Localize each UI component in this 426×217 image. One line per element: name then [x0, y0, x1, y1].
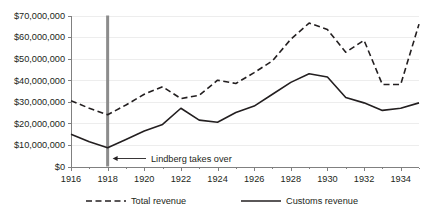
y-axis-tick-label: $30,000,000 — [14, 97, 65, 107]
x-axis-tick-label: 1932 — [354, 174, 374, 184]
x-axis-tick-label: 1928 — [281, 174, 301, 184]
chart-container: $0$10,000,000$20,000,000$30,000,000$40,0… — [0, 0, 426, 217]
annotation-label: Lindberg takes over — [151, 154, 232, 164]
y-axis-tick-label: $60,000,000 — [14, 32, 65, 42]
y-axis-tick-label: $0 — [55, 162, 65, 172]
x-axis-tick-label: 1926 — [244, 174, 264, 184]
legend-label-total-revenue: Total revenue — [131, 196, 186, 206]
y-axis-tick-label: $70,000,000 — [14, 11, 65, 21]
legend-label-customs-revenue: Customs revenue — [286, 196, 358, 206]
x-axis-tick-label: 1918 — [97, 174, 117, 184]
x-axis-tick-label: 1934 — [390, 174, 410, 184]
revenue-line-chart: $0$10,000,000$20,000,000$30,000,000$40,0… — [0, 0, 426, 217]
x-axis-tick-label: 1922 — [171, 174, 191, 184]
y-axis-tick-label: $10,000,000 — [14, 140, 65, 150]
y-axis-tick-label: $40,000,000 — [14, 76, 65, 86]
x-axis-tick-label: 1916 — [61, 174, 81, 184]
y-axis-tick-label: $50,000,000 — [14, 54, 65, 64]
x-axis-tick-label: 1924 — [207, 174, 227, 184]
x-axis-tick-label: 1930 — [317, 174, 337, 184]
x-axis-tick-label: 1920 — [134, 174, 154, 184]
y-axis-tick-label: $20,000,000 — [14, 119, 65, 129]
